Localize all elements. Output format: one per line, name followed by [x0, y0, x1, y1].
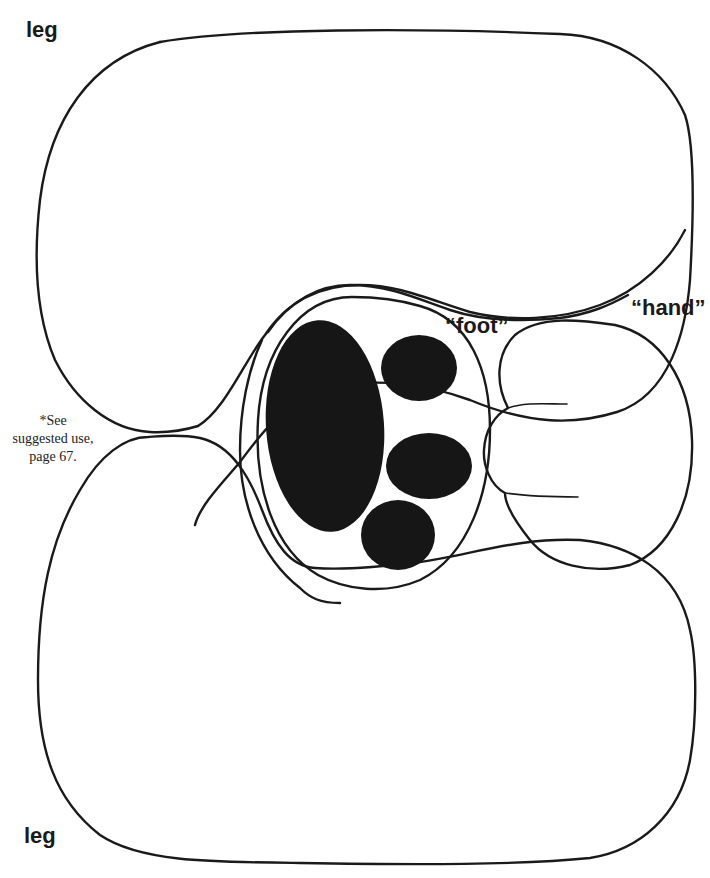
- hand-finger-line-top: [508, 404, 567, 408]
- label-leg-bottom: leg: [24, 825, 56, 847]
- paw-pad-toe-2: [386, 433, 472, 499]
- hand-finger-line-bottom: [505, 493, 578, 497]
- label-leg-top: leg: [26, 19, 58, 41]
- label-hand: “hand”: [631, 297, 706, 319]
- note-line-3: page 67.: [8, 448, 98, 466]
- label-foot: “foot”: [445, 315, 509, 337]
- hand-outline: [484, 321, 692, 569]
- paw-pad-toe-1: [381, 335, 457, 401]
- suggested-use-note: *See suggested use, page 67.: [8, 412, 98, 466]
- paw-pad-large: [259, 316, 392, 536]
- pattern-drawing: [0, 0, 710, 878]
- note-line-1: *See: [8, 412, 98, 430]
- note-line-2: suggested use,: [8, 430, 98, 448]
- leg-top-left-edge: [36, 42, 198, 432]
- pattern-page: leg leg “foot” “hand” *See suggested use…: [0, 0, 710, 878]
- paw-pad-toe-3: [361, 500, 435, 570]
